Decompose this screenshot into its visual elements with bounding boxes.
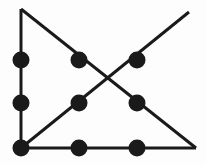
graph-node[interactable] <box>129 95 146 112</box>
graph-node[interactable] <box>13 140 30 157</box>
graph-node[interactable] <box>71 140 88 157</box>
graph-node[interactable] <box>71 52 88 69</box>
edge-diagonal-ascending <box>21 12 189 148</box>
graph-node[interactable] <box>71 95 88 112</box>
edges-layer <box>21 9 196 148</box>
nodes-layer <box>13 52 146 157</box>
graph-node[interactable] <box>129 140 146 157</box>
graph-node[interactable] <box>129 52 146 69</box>
graph-node[interactable] <box>13 95 30 112</box>
graph-diagram <box>0 0 206 164</box>
graph-node[interactable] <box>13 52 30 69</box>
figure-canvas <box>0 0 206 164</box>
